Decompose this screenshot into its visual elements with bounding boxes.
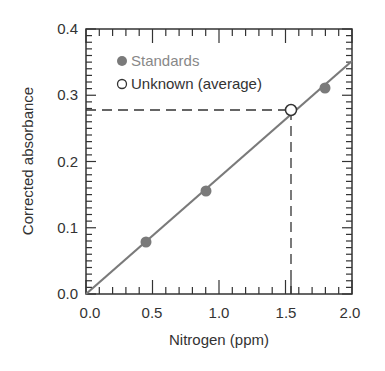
y-tick-0: 0.0 — [57, 285, 78, 302]
calibration-chart: 0.0 0.1 0.2 0.3 0.4 0.0 0.5 1.0 1.5 2.0 … — [0, 0, 385, 371]
unknown-point — [286, 105, 297, 116]
x-tick-1: 0.5 — [142, 304, 163, 321]
y-tick-labels: 0.0 0.1 0.2 0.3 0.4 — [57, 20, 78, 302]
y-axis-label: Corrected absorbance — [19, 87, 36, 235]
standard-point — [201, 186, 212, 197]
y-tick-2: 0.2 — [57, 153, 78, 170]
x-tick-3: 1.5 — [276, 304, 297, 321]
x-tick-4: 2.0 — [340, 304, 361, 321]
legend-open-circle-icon — [118, 80, 127, 89]
standard-point — [320, 83, 331, 94]
plot-frame — [86, 29, 352, 294]
legend-unknown-label: Unknown (average) — [131, 75, 262, 92]
legend-filled-circle-icon — [117, 56, 127, 66]
y-tick-1: 0.1 — [57, 219, 78, 236]
axis-ticks — [86, 29, 352, 294]
legend-standards-label: Standards — [131, 52, 199, 69]
y-tick-3: 0.3 — [57, 86, 78, 103]
x-tick-0: 0.0 — [80, 304, 101, 321]
legend: Standards Unknown (average) — [117, 52, 262, 92]
x-tick-2: 1.0 — [209, 304, 230, 321]
y-tick-4: 0.4 — [57, 20, 78, 37]
calibration-fit-line — [86, 61, 352, 294]
x-tick-labels: 0.0 0.5 1.0 1.5 2.0 — [80, 304, 361, 321]
standard-point — [141, 237, 152, 248]
x-axis-label: Nitrogen (ppm) — [169, 331, 269, 348]
